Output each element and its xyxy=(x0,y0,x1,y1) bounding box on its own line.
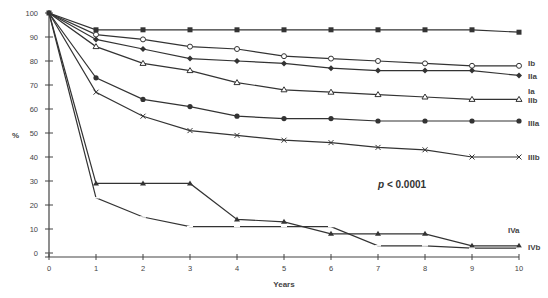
y-tick-label: 50 xyxy=(30,129,38,138)
data-point-marker xyxy=(235,27,240,32)
data-point-marker xyxy=(140,46,146,52)
data-point-marker xyxy=(234,114,239,119)
x-tick-label: 0 xyxy=(47,264,51,273)
data-point-marker xyxy=(423,61,428,66)
data-point-marker xyxy=(281,60,287,66)
series-label: IIa xyxy=(528,72,537,81)
y-tick-label: 70 xyxy=(30,81,38,90)
x-tick-label: 3 xyxy=(188,264,192,273)
data-point-marker xyxy=(188,27,193,32)
x-tick-label: 9 xyxy=(470,264,474,273)
data-point-marker xyxy=(282,54,287,59)
y-tick-label: 60 xyxy=(30,105,38,114)
x-tick-label: 2 xyxy=(141,264,145,273)
data-point-marker xyxy=(516,118,521,123)
data-point-marker xyxy=(93,197,99,198)
data-point-marker xyxy=(470,27,475,32)
data-point-marker xyxy=(422,245,428,246)
series-label: IVb xyxy=(528,243,541,252)
data-point-marker xyxy=(93,75,98,80)
p-value-annotation: p < 0.0001 xyxy=(377,179,427,190)
series-label: Ib xyxy=(528,59,535,68)
data-point-marker xyxy=(469,118,474,123)
y-tick-label: 90 xyxy=(30,33,38,42)
series-ia: Ia xyxy=(49,13,535,96)
data-point-marker xyxy=(423,27,428,32)
y-tick-label: 30 xyxy=(30,177,38,186)
data-point-marker xyxy=(376,59,381,64)
series-line xyxy=(49,13,519,157)
series-line xyxy=(49,13,519,248)
data-point-marker xyxy=(94,27,99,32)
series-iib: IIb xyxy=(49,13,537,105)
data-point-marker xyxy=(282,27,287,32)
data-point-marker xyxy=(281,116,286,121)
series-label: IIb xyxy=(528,96,537,105)
y-axis-title: % xyxy=(12,131,19,140)
data-point-marker xyxy=(376,27,381,32)
x-tick-label: 10 xyxy=(515,264,523,273)
data-point-marker xyxy=(375,68,381,74)
series-iva: IVa xyxy=(49,13,522,248)
y-tick-label: 10 xyxy=(30,225,38,234)
data-point-marker xyxy=(375,245,381,246)
x-tick-label: 1 xyxy=(94,264,98,273)
data-point-marker xyxy=(188,44,193,49)
series-iiib: IIIb xyxy=(49,13,540,162)
data-point-marker xyxy=(94,90,99,95)
data-point-marker xyxy=(93,36,99,42)
y-tick-label: 0 xyxy=(34,249,38,258)
y-tick-label: 80 xyxy=(30,57,38,66)
data-point-marker xyxy=(517,30,522,35)
data-point-marker xyxy=(234,226,240,227)
data-point-marker xyxy=(141,37,146,42)
data-point-marker xyxy=(187,56,193,62)
series-line xyxy=(49,13,519,246)
series-label: IIIa xyxy=(528,119,540,128)
series-group: IaIbIIaIIbIIIaIIIbIVaIVb xyxy=(47,11,541,253)
x-tick-label: 4 xyxy=(235,264,239,273)
data-point-marker xyxy=(329,56,334,61)
data-point-marker xyxy=(375,118,380,123)
origin-marker xyxy=(47,11,52,16)
data-point-marker xyxy=(187,104,192,109)
x-tick-label: 8 xyxy=(423,264,427,273)
data-point-marker xyxy=(469,68,475,74)
data-point-marker xyxy=(422,118,427,123)
y-tick-label: 40 xyxy=(30,153,38,162)
series-iia: IIa xyxy=(49,13,537,81)
data-point-marker xyxy=(329,27,334,32)
data-point-marker xyxy=(234,58,240,64)
data-point-marker xyxy=(140,97,145,102)
data-point-marker xyxy=(469,248,475,249)
data-point-marker xyxy=(140,216,146,217)
data-point-marker xyxy=(328,226,334,227)
x-axis-title: Years xyxy=(273,280,295,289)
data-point-marker xyxy=(470,63,475,68)
series-ivb: IVb xyxy=(49,13,541,252)
data-point-marker xyxy=(328,116,333,121)
y-tick-label: 20 xyxy=(30,201,38,210)
data-point-marker xyxy=(141,27,146,32)
data-point-marker xyxy=(93,44,99,49)
series-label: IVa xyxy=(508,226,520,235)
survival-chart: 0102030405060708090100 012345678910 % Ye… xyxy=(0,0,548,298)
series-ib: Ib xyxy=(49,13,535,68)
data-point-marker xyxy=(235,47,240,52)
x-tick-label: 7 xyxy=(376,264,380,273)
data-point-marker xyxy=(328,65,334,71)
data-point-marker xyxy=(517,63,522,68)
series-label: IIIb xyxy=(528,153,540,162)
data-point-marker xyxy=(516,248,522,249)
y-tick-label: 100 xyxy=(25,9,38,18)
data-point-marker xyxy=(422,68,428,74)
x-tick-label: 6 xyxy=(329,264,333,273)
x-tick-label: 5 xyxy=(282,264,286,273)
data-point-marker xyxy=(94,32,99,37)
series-label: Ia xyxy=(528,87,535,96)
data-point-marker xyxy=(516,72,522,78)
p-value-text: < 0.0001 xyxy=(384,179,426,190)
data-point-marker xyxy=(187,226,193,227)
data-point-marker xyxy=(281,226,287,227)
p-symbol: p xyxy=(377,179,384,190)
